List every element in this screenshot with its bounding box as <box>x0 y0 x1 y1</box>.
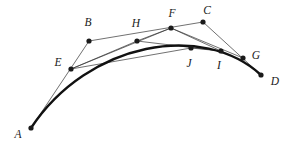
bezier-curve-group <box>31 46 261 128</box>
control-point-f[interactable] <box>168 25 173 30</box>
control-point-e[interactable] <box>68 66 73 71</box>
point-label-g: G <box>252 50 260 62</box>
segment-F-G <box>171 28 243 58</box>
point-label-j: J <box>186 58 191 70</box>
segment-E-J <box>71 48 191 69</box>
control-point-g[interactable] <box>240 55 245 60</box>
control-point-i[interactable] <box>218 48 223 53</box>
point-label-f: F <box>168 8 175 20</box>
control-point-j[interactable] <box>188 45 193 50</box>
control-point-c[interactable] <box>200 19 205 24</box>
casteljau-figure: ABCDEFGHIJ <box>0 0 289 143</box>
control-polygon-lines <box>31 22 261 128</box>
control-point-a[interactable] <box>28 125 33 130</box>
control-point-b[interactable] <box>86 38 91 43</box>
point-label-d: D <box>271 76 279 88</box>
point-label-a: A <box>14 129 21 141</box>
point-label-i: I <box>217 60 221 72</box>
casteljau-diagram-canvas <box>0 0 289 143</box>
bezier-curve <box>31 46 261 128</box>
point-label-e: E <box>54 57 61 69</box>
control-point-dots <box>28 19 263 130</box>
point-label-b: B <box>84 17 91 29</box>
control-point-d[interactable] <box>258 72 263 77</box>
point-label-c: C <box>203 5 211 17</box>
point-label-h: H <box>132 18 140 30</box>
control-point-h[interactable] <box>134 38 139 43</box>
